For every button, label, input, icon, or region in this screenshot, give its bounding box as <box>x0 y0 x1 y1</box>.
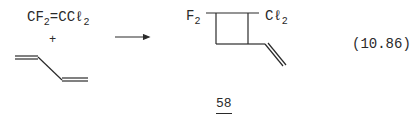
cyclobutane-product-structure <box>206 13 286 66</box>
butadiene-structure <box>15 56 88 81</box>
reaction-arrow <box>115 35 149 40</box>
structure-drawings <box>0 0 412 124</box>
